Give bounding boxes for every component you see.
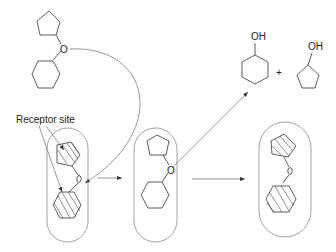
cyclohexane-ring <box>32 61 60 88</box>
products: OH + OH <box>242 31 323 88</box>
enzyme-capsule-3 <box>259 122 311 237</box>
enzyme-capsule-1 <box>47 128 88 242</box>
receptor-site-label: Receptor site <box>16 114 75 125</box>
enzyme-capsule-2: O <box>134 128 177 242</box>
cyclopentanol-ring <box>297 65 319 88</box>
receptor-pointer-upper <box>46 126 64 150</box>
cyclohexanol-ring <box>242 55 268 84</box>
oxygen-label: O <box>60 44 68 55</box>
cyclopentanol-oh-label: OH <box>308 41 323 52</box>
complex-oxygen-label: O <box>167 165 175 176</box>
receptor-pointer-lower <box>39 126 62 192</box>
regenerated-oxygen <box>288 168 292 175</box>
plus-sign: + <box>276 67 282 78</box>
cyclopentane-ring <box>37 11 60 35</box>
arrow-to-products <box>172 92 248 168</box>
free-ether-molecule: O <box>32 11 68 88</box>
cyclohexanol-oh-label: OH <box>251 31 266 42</box>
bound-oxygen <box>77 176 81 183</box>
binding-arrow <box>70 49 140 183</box>
